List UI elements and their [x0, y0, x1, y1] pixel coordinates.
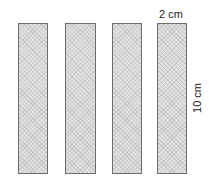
- strip-2: [65, 23, 96, 174]
- strip-1: [18, 23, 48, 174]
- strip-4: [157, 23, 187, 174]
- height-label: 10 cm: [191, 81, 203, 115]
- strip-3: [112, 23, 142, 174]
- width-label: 2 cm: [155, 8, 187, 20]
